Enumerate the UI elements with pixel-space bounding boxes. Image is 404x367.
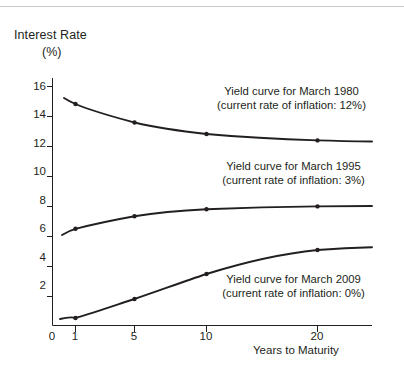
curve-2009-line bbox=[60, 247, 372, 319]
data-point bbox=[132, 120, 136, 124]
chart-canvas bbox=[0, 0, 404, 367]
axis-group bbox=[47, 78, 372, 332]
curve-2009 bbox=[60, 247, 372, 320]
data-point bbox=[204, 207, 208, 211]
y-tick-marks bbox=[47, 87, 53, 297]
data-point bbox=[73, 227, 77, 231]
curve-1980 bbox=[64, 98, 372, 143]
data-point bbox=[132, 297, 136, 301]
x-tick-marks bbox=[76, 326, 318, 333]
data-point bbox=[315, 204, 319, 208]
curve-1995 bbox=[62, 204, 372, 235]
curve-1995-line bbox=[62, 206, 372, 235]
data-point bbox=[315, 248, 319, 252]
data-point bbox=[315, 138, 319, 142]
data-point bbox=[73, 316, 77, 320]
data-point bbox=[204, 132, 208, 136]
yield-curve-chart: Interest Rate (%) 16 14 12 10 8 6 4 2 0 … bbox=[0, 0, 404, 367]
data-point bbox=[204, 272, 208, 276]
curve-1980-line bbox=[64, 98, 372, 142]
data-point bbox=[73, 102, 77, 106]
data-point bbox=[132, 214, 136, 218]
